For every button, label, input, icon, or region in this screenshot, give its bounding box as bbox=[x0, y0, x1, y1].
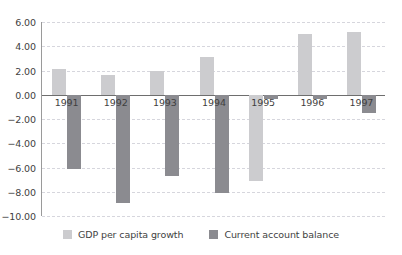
x-tick-label-1997: 1997 bbox=[336, 97, 386, 108]
plot-area: 1991199219931994199519961997 bbox=[41, 22, 385, 216]
x-tick-label-1991: 1991 bbox=[42, 97, 92, 108]
gridline-2.00 bbox=[42, 71, 385, 72]
x-tick-label-1993: 1993 bbox=[140, 97, 190, 108]
gridline-neg10.00 bbox=[42, 216, 385, 217]
bar-1994-series1 bbox=[215, 95, 229, 193]
y-tick-label: −8.00 bbox=[0, 186, 36, 197]
legend-label: Current account balance bbox=[224, 229, 339, 240]
x-tick-label-1996: 1996 bbox=[287, 97, 337, 108]
bar-1991-series0 bbox=[52, 69, 66, 94]
bar-1994-series0 bbox=[200, 57, 214, 95]
gridline-4.00 bbox=[42, 46, 385, 47]
y-tick-label: −2.00 bbox=[0, 114, 36, 125]
legend-item-0[interactable]: GDP per capita growth bbox=[63, 229, 183, 240]
y-tick-label: 0.00 bbox=[0, 89, 36, 100]
gridline-neg4.00 bbox=[42, 143, 385, 144]
legend-item-1[interactable]: Current account balance bbox=[209, 229, 339, 240]
bar-1993-series0 bbox=[150, 71, 164, 95]
gridline-neg8.00 bbox=[42, 192, 385, 193]
x-tick-label-1995: 1995 bbox=[238, 97, 288, 108]
bar-1992-series0 bbox=[101, 75, 115, 94]
legend-swatch-icon bbox=[63, 230, 72, 239]
x-tick-label-1992: 1992 bbox=[91, 97, 141, 108]
chart-container: 6.004.002.000.00−2.00−4.00−6.00−8.00−10.… bbox=[0, 0, 402, 255]
y-tick-label: 2.00 bbox=[0, 65, 36, 76]
y-tick-label: −4.00 bbox=[0, 138, 36, 149]
chart-legend: GDP per capita growthCurrent account bal… bbox=[0, 229, 402, 240]
y-tick-label: −6.00 bbox=[0, 162, 36, 173]
y-tick-label: −10.00 bbox=[0, 211, 36, 222]
bar-1997-series0 bbox=[347, 32, 361, 95]
legend-swatch-icon bbox=[209, 230, 218, 239]
gridline-0.00 bbox=[42, 95, 385, 96]
bar-1992-series1 bbox=[116, 95, 130, 203]
gridline-6.00 bbox=[42, 22, 385, 23]
y-tick-label: 6.00 bbox=[0, 17, 36, 28]
bar-1996-series0 bbox=[298, 34, 312, 95]
gridline-neg6.00 bbox=[42, 168, 385, 169]
x-tick-label-1994: 1994 bbox=[189, 97, 239, 108]
y-tick-label: 4.00 bbox=[0, 41, 36, 52]
legend-label: GDP per capita growth bbox=[78, 229, 183, 240]
gridline-neg2.00 bbox=[42, 119, 385, 120]
